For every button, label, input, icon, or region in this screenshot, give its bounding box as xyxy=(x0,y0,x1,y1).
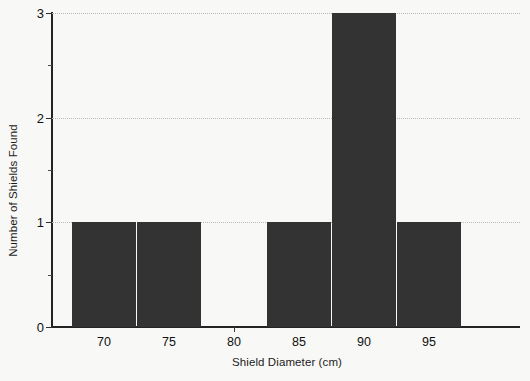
histogram-bar xyxy=(267,222,330,327)
histogram-figure: Number of Shields Found 0123 70758085909… xyxy=(0,0,530,381)
y-axis-title: Number of Shields Found xyxy=(0,0,28,381)
y-axis-tick-label: 0 xyxy=(37,320,44,335)
y-axis-tick-label: 1 xyxy=(37,215,44,230)
gridline xyxy=(52,118,520,119)
y-axis-tick xyxy=(46,13,52,14)
histogram-bar xyxy=(137,222,200,327)
y-axis-tick-label: 2 xyxy=(37,110,44,125)
y-axis-minor-tick xyxy=(48,65,52,66)
plot-area: 0123 707580859095 xyxy=(52,13,520,327)
histogram-bar xyxy=(397,222,460,327)
histogram-bar xyxy=(332,13,395,327)
y-axis-tick-label: 3 xyxy=(37,6,44,21)
x-axis-tick-label: 75 xyxy=(162,335,176,349)
y-axis-minor-tick xyxy=(48,170,52,171)
x-axis-title-text: Shield Diameter (cm) xyxy=(232,356,342,368)
x-axis-tick-label: 70 xyxy=(97,335,111,349)
gridline xyxy=(52,13,520,14)
x-axis-tick-label: 85 xyxy=(292,335,306,349)
x-axis-tick-label: 90 xyxy=(357,335,371,349)
x-axis-tick-label: 80 xyxy=(227,335,241,349)
histogram-bar xyxy=(72,222,135,327)
x-axis-tick-label: 95 xyxy=(422,335,436,349)
x-axis-title: Shield Diameter (cm) xyxy=(52,352,522,372)
y-axis-minor-tick xyxy=(48,275,52,276)
y-axis-tick xyxy=(46,222,52,223)
y-axis-tick xyxy=(46,118,52,119)
x-axis-tick xyxy=(234,327,235,332)
y-axis-tick xyxy=(46,327,52,328)
y-axis-title-text: Number of Shields Found xyxy=(7,124,21,257)
